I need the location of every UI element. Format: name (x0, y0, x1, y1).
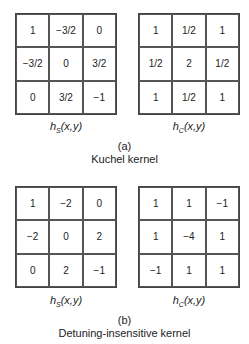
cell: 0 (16, 254, 49, 287)
cell: −4 (172, 220, 205, 253)
cell: 3/2 (83, 47, 116, 80)
cell: −1 (139, 254, 172, 287)
kernel-grid-a-hs: 1 −3/2 0 −3/2 0 3/2 0 3/2 −1 (15, 13, 117, 115)
cell: −2 (49, 187, 82, 220)
panel-title-b: Detuning-insensitive kernel (0, 327, 249, 339)
cell: −3/2 (49, 14, 82, 47)
cell: 2 (172, 47, 205, 80)
kernel-label-b-hc: hC(x,y) (138, 294, 240, 308)
cell: 2 (49, 254, 82, 287)
panel-title-a: Kuchel kernel (0, 153, 249, 165)
cell: 0 (49, 220, 82, 253)
cell: 1 (16, 187, 49, 220)
panel-tag-b: (b) (0, 314, 249, 326)
cell: −2 (16, 220, 49, 253)
cell: 0 (83, 187, 116, 220)
panel-tag-a: (a) (0, 140, 249, 152)
kernel-label-a-hs: hS(x,y) (15, 120, 117, 134)
cell: 1 (139, 81, 172, 114)
cell: 3/2 (49, 81, 82, 114)
kernel-grid-a-hc: 1 1/2 1 1/2 2 1/2 1 1/2 1 (138, 13, 240, 115)
cell: 1 (206, 81, 239, 114)
cell: 1/2 (139, 47, 172, 80)
cell: −1 (83, 254, 116, 287)
cell: 1/2 (172, 81, 205, 114)
cell: 0 (16, 81, 49, 114)
kernel-label-a-hc: hC(x,y) (138, 120, 240, 134)
cell: 1 (139, 187, 172, 220)
cell: −1 (206, 187, 239, 220)
cell: 1 (16, 14, 49, 47)
cell: 1 (206, 14, 239, 47)
cell: 1 (139, 220, 172, 253)
cell: 2 (83, 220, 116, 253)
cell: 1 (206, 254, 239, 287)
cell: −1 (83, 81, 116, 114)
kernel-grid-b-hc: 1 1 −1 1 −4 1 −1 1 1 (138, 186, 240, 288)
kernel-label-b-hs: hS(x,y) (15, 294, 117, 308)
cell: 1 (172, 254, 205, 287)
cell: 1/2 (172, 14, 205, 47)
cell: −3/2 (16, 47, 49, 80)
cell: 1 (172, 187, 205, 220)
cell: 0 (83, 14, 116, 47)
kernel-grid-b-hs: 1 −2 0 −2 0 2 0 2 −1 (15, 186, 117, 288)
cell: 1 (206, 220, 239, 253)
cell: 1 (139, 14, 172, 47)
cell: 1/2 (206, 47, 239, 80)
cell: 0 (49, 47, 82, 80)
